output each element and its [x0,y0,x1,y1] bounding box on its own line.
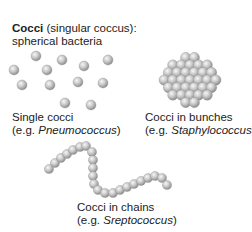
chains-label: Cocci in chains [77,201,154,214]
title-line-2: spherical bacteria [12,35,102,48]
example-genus: Sreptococcus [103,214,173,226]
coccus-sphere [57,55,67,65]
coccus-sphere [79,61,89,71]
cocci-chains-illustration [44,141,171,197]
title-rest: (singular coccus): [43,22,136,34]
single-cocci-example: (e.g. Pneumococcus) [12,124,121,137]
coccus-sphere [31,51,41,61]
coccus-sphere [98,78,108,88]
coccus-sphere [103,55,113,65]
title-bold: Cocci [12,22,43,34]
example-prefix: (e.g. [77,214,103,226]
title-line-1: Cocci (singular coccus): [12,22,137,35]
example-suffix: ) [117,124,121,136]
coccus-sphere [88,171,97,180]
cocci-bunches-illustration [159,52,221,107]
coccus-sphere [9,65,19,75]
single-cocci-label: Single cocci [12,111,73,124]
coccus-sphere [42,65,52,75]
coccus-sphere [45,80,55,90]
example-prefix: (e.g. [12,124,38,136]
example-suffix: ) [173,214,177,226]
coccus-sphere [162,180,171,189]
example-genus: Staphylococcus [171,124,252,136]
coccus-sphere [87,147,96,156]
coccus-sphere [60,98,70,108]
bunches-example: (e.g. Staphylococcus) [145,124,252,137]
chains-example: (e.g. Sreptococcus) [77,214,177,227]
coccus-sphere [86,100,96,110]
example-prefix: (e.g. [145,124,171,136]
coccus-sphere [73,77,83,87]
coccus-sphere [189,97,199,107]
coccus-sphere [17,80,27,90]
single-cocci-illustration [9,51,113,110]
bunches-label: Cocci in bunches [145,111,233,124]
example-genus: Pneumococcus [38,124,117,136]
coccus-sphere [202,90,212,100]
